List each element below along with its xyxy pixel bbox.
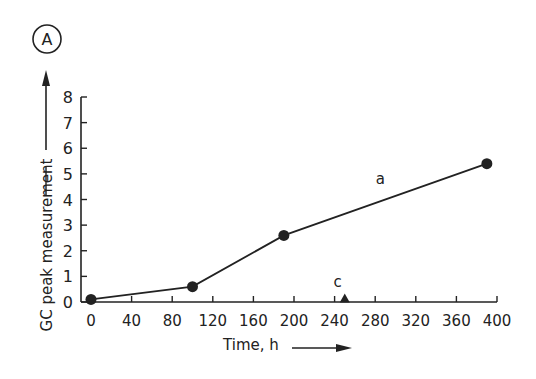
annotations: ac bbox=[334, 170, 385, 291]
x-tick-label: 40 bbox=[122, 312, 141, 330]
y-tick-label: 7 bbox=[63, 114, 73, 133]
x-axis-arrow-icon bbox=[336, 344, 352, 352]
y-axis-arrow-icon bbox=[42, 70, 50, 86]
annotation-label-a: a bbox=[376, 170, 385, 188]
data-point-a bbox=[481, 158, 492, 169]
y-tick-label: 4 bbox=[63, 191, 73, 210]
data-point-a bbox=[187, 281, 198, 292]
x-tick-label: 240 bbox=[320, 312, 349, 330]
y-tick-label: 1 bbox=[63, 267, 73, 286]
x-tick-label: 200 bbox=[280, 312, 309, 330]
data-point-a bbox=[86, 294, 97, 305]
x-tick-label: 0 bbox=[86, 312, 96, 330]
y-tick-label: 5 bbox=[63, 165, 73, 184]
series-line-a bbox=[91, 164, 487, 300]
x-tick-label: 120 bbox=[198, 312, 227, 330]
x-tick-label: 160 bbox=[239, 312, 268, 330]
y-axis-label: GC peak measurement bbox=[38, 158, 56, 331]
x-axis-label: Time, h bbox=[222, 336, 279, 354]
panel-label-text: A bbox=[42, 30, 53, 49]
y-axis-label-group: GC peak measurement bbox=[38, 70, 56, 331]
y-tick-label: 6 bbox=[63, 139, 73, 158]
x-tick-label: 80 bbox=[163, 312, 182, 330]
x-axis-label-group: Time, h bbox=[222, 336, 352, 354]
y-tick-label: 2 bbox=[63, 242, 73, 261]
x-tick-label: 280 bbox=[361, 312, 390, 330]
x-tick-label: 360 bbox=[442, 312, 471, 330]
x-tick-label: 320 bbox=[401, 312, 430, 330]
y-tick-label: 0 bbox=[63, 293, 73, 312]
chart: A GC peak measurement 012345678040801201… bbox=[0, 0, 536, 379]
x-tick-label: 400 bbox=[483, 312, 512, 330]
annotation-label-c: c bbox=[334, 273, 342, 291]
data-series bbox=[86, 158, 493, 305]
data-point-c bbox=[340, 293, 350, 302]
y-tick-label: 8 bbox=[63, 88, 73, 107]
panel-label: A bbox=[33, 25, 61, 53]
y-tick-label: 3 bbox=[63, 216, 73, 235]
data-point-a bbox=[278, 230, 289, 241]
